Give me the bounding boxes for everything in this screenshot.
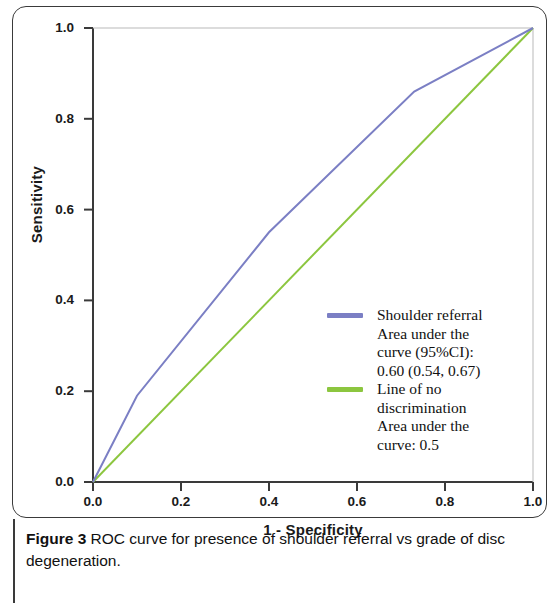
legend-line: curve (95%CI):	[377, 343, 482, 362]
legend-line: curve: 0.5	[377, 436, 469, 455]
y-tick-label-5: 1.0	[34, 20, 74, 35]
roc-plot-svg	[0, 0, 559, 560]
x-tick-label-3: 0.6	[334, 494, 380, 509]
legend-line: discrimination	[377, 399, 469, 418]
x-tick-label-0: 0.0	[70, 494, 116, 509]
figure-caption-text: ROC curve for presence of shoulder refer…	[26, 530, 505, 569]
figure-caption: Figure 3 ROC curve for presence of shoul…	[26, 528, 546, 572]
legend-line: Line of no	[377, 380, 469, 399]
y-axis-title: Sensitivity	[28, 145, 45, 265]
legend-line: 0.60 (0.54, 0.67)	[377, 362, 482, 381]
y-tick-label-0: 0.0	[34, 474, 74, 489]
x-tick-label-5: 1.0	[510, 494, 556, 509]
roc-chart: 0.0 0.2 0.4 0.6 0.8 1.0 0.0 0.2 0.4 0.6 …	[0, 0, 559, 560]
x-tick-label-4: 0.8	[422, 494, 468, 509]
legend-swatch-shoulder-referral	[327, 313, 363, 318]
legend-line: Shoulder referral	[377, 306, 482, 325]
figure-caption-label: Figure 3	[26, 530, 86, 547]
legend-entry-no-discrimination: Line of no discrimination Area under the…	[327, 380, 527, 454]
legend-swatch-no-discrimination	[327, 387, 363, 392]
legend-line: Area under the	[377, 417, 469, 436]
x-tick-label-2: 0.4	[246, 494, 292, 509]
x-axis-ticks	[93, 482, 533, 491]
y-tick-label-4: 0.8	[34, 111, 74, 126]
legend-line: Area under the	[377, 325, 482, 344]
x-tick-label-1: 0.2	[158, 494, 204, 509]
y-tick-label-2: 0.4	[34, 292, 74, 307]
legend-entry-shoulder-referral: Shoulder referral Area under the curve (…	[327, 306, 527, 380]
chart-legend: Shoulder referral Area under the curve (…	[327, 306, 527, 454]
y-axis-ticks	[84, 28, 93, 482]
y-tick-label-1: 0.2	[34, 383, 74, 398]
legend-text-no-discrimination: Line of no discrimination Area under the…	[377, 380, 469, 454]
legend-text-shoulder-referral: Shoulder referral Area under the curve (…	[377, 306, 482, 380]
